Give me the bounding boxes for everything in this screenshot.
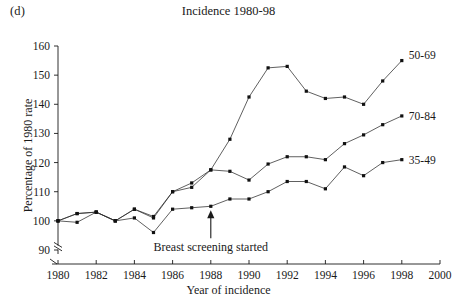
y-axis-ticks: 90100110120130140150160 (33, 40, 58, 256)
data-point-marker (228, 170, 231, 173)
x-tick-label: 1992 (276, 269, 299, 281)
data-point-marker (247, 178, 250, 181)
data-point-marker (76, 212, 79, 215)
line-chart-plot: 90100110120130140150160 1980198219841986… (0, 0, 457, 303)
y-tick-label: 90 (39, 244, 51, 256)
data-point-marker (286, 65, 289, 68)
data-point-marker (381, 123, 384, 126)
series-70-84 (56, 114, 403, 222)
data-point-marker (76, 221, 79, 224)
data-point-marker (133, 208, 136, 211)
x-tick-label: 1994 (314, 269, 337, 281)
data-point-marker (324, 187, 327, 190)
data-point-marker (247, 197, 250, 200)
data-point-marker (305, 180, 308, 183)
data-point-marker (190, 181, 193, 184)
data-point-marker (171, 190, 174, 193)
data-point-marker (209, 168, 212, 171)
data-point-marker (267, 190, 270, 193)
x-tick-label: 1984 (123, 269, 146, 281)
x-tick-label: 1988 (199, 269, 222, 281)
annotation-arrow-head (207, 210, 214, 218)
data-point-marker (343, 95, 346, 98)
data-point-marker (152, 215, 155, 218)
series-label-70-84: 70-84 (409, 110, 436, 122)
series-label-50-69: 50-69 (409, 49, 436, 61)
y-axis-label: Percentage of 1980 rate (21, 66, 36, 246)
x-tick-label: 1982 (85, 269, 108, 281)
data-point-marker (247, 95, 250, 98)
series-line (58, 116, 402, 221)
data-point-marker (133, 216, 136, 219)
data-point-marker (400, 114, 403, 117)
annotation-layer: Breast screening started (153, 210, 268, 254)
figure-panel: (d) Incidence 1980-98 Percentage of 1980… (0, 0, 457, 303)
data-point-marker (343, 142, 346, 145)
data-point-marker (95, 211, 98, 214)
data-point-marker (267, 66, 270, 69)
data-point-marker (171, 208, 174, 211)
data-point-marker (362, 103, 365, 106)
data-point-marker (324, 97, 327, 100)
data-point-marker (362, 133, 365, 136)
data-series-layer (56, 59, 403, 234)
data-point-marker (305, 90, 308, 93)
data-point-marker (190, 186, 193, 189)
x-tick-label: 1980 (47, 269, 70, 281)
data-point-marker (228, 197, 231, 200)
data-point-marker (286, 180, 289, 183)
data-point-marker (343, 165, 346, 168)
x-tick-label: 1990 (238, 269, 261, 281)
data-point-marker (190, 206, 193, 209)
data-point-marker (228, 138, 231, 141)
y-tick-label: 160 (33, 40, 51, 52)
data-point-marker (56, 219, 59, 222)
data-point-marker (362, 174, 365, 177)
x-tick-label: 2000 (429, 269, 452, 281)
series-labels-layer: 50-6970-8435-49 (409, 49, 436, 166)
axis-lines (50, 46, 440, 264)
x-axis-label: Year of incidence (0, 283, 457, 298)
data-point-marker (209, 205, 212, 208)
data-point-marker (400, 158, 403, 161)
y-tick-label: 110 (33, 186, 50, 198)
data-point-marker (305, 155, 308, 158)
data-point-marker (114, 219, 117, 222)
x-tick-label: 1986 (161, 269, 184, 281)
series-label-35-49: 35-49 (409, 154, 436, 166)
x-tick-label: 1998 (390, 269, 413, 281)
data-point-marker (381, 79, 384, 82)
data-point-marker (286, 155, 289, 158)
x-axis-ticks: 1980198219841986198819901992199419961998… (47, 260, 452, 281)
annotation-label: Breast screening started (153, 240, 268, 254)
data-point-marker (152, 231, 155, 234)
x-axis-break-mark (50, 259, 57, 264)
data-point-marker (400, 59, 403, 62)
data-point-marker (324, 158, 327, 161)
chart-title: Incidence 1980-98 (0, 4, 457, 19)
x-tick-label: 1996 (352, 269, 375, 281)
data-point-marker (267, 162, 270, 165)
data-point-marker (381, 161, 384, 164)
series-35-49 (56, 158, 403, 234)
